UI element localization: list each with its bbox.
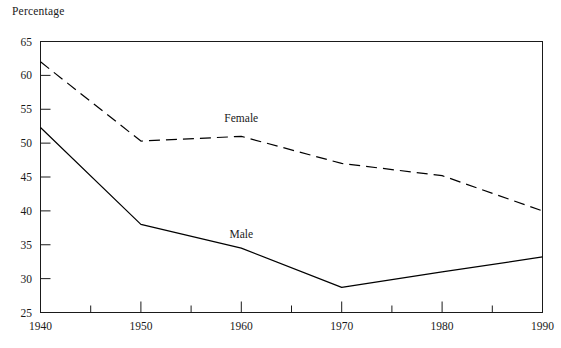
x-tick-label: 1960 — [230, 320, 253, 332]
axis-ticks — [41, 75, 493, 312]
series-label-female: Female — [224, 112, 258, 124]
plot-frame — [41, 42, 543, 313]
series-line-male — [41, 128, 543, 288]
x-tick-label: 1950 — [129, 320, 152, 332]
data-series — [41, 62, 543, 288]
y-axis-title: Percentage — [12, 5, 64, 17]
y-tick-label: 30 — [6, 273, 32, 285]
x-tick-label: 1940 — [29, 320, 52, 332]
y-tick-label: 55 — [6, 103, 32, 115]
line-chart-plot — [0, 0, 561, 348]
series-label-male: Male — [229, 228, 253, 240]
y-tick-label: 60 — [6, 69, 32, 81]
x-tick-label: 1980 — [431, 320, 454, 332]
x-tick-label: 1970 — [330, 320, 353, 332]
y-tick-label: 50 — [6, 137, 32, 149]
y-tick-label: 35 — [6, 239, 32, 251]
y-tick-label: 65 — [6, 36, 32, 48]
y-tick-label: 25 — [6, 307, 32, 319]
x-tick-label: 1990 — [531, 320, 554, 332]
y-tick-label: 45 — [6, 171, 32, 183]
chart-figure: Percentage 253035404550556065 1940195019… — [0, 0, 561, 348]
y-tick-label: 40 — [6, 205, 32, 217]
series-line-female — [41, 62, 543, 211]
